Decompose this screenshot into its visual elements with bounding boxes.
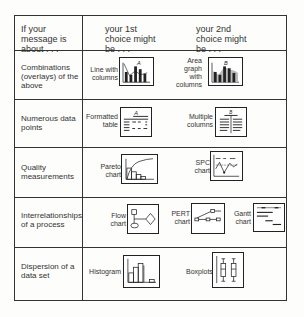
svg-text:B: B	[229, 110, 232, 115]
table-row: Combinations (overlays) of the above Lin…	[15, 51, 286, 100]
gantt-chart-icon	[253, 203, 285, 232]
choice-caption: Formatted table	[85, 113, 118, 129]
row-topic: Combinations (overlays) of the above	[21, 63, 79, 90]
row-topic: Dispersion of a data set	[21, 262, 79, 280]
svg-text:B: B	[224, 60, 228, 66]
row-topic: Quality measurements	[21, 163, 79, 181]
pert-chart-icon	[191, 203, 225, 234]
header-row: If your message is about . . . your 1st …	[15, 16, 286, 51]
flow-chart-icon	[127, 204, 159, 234]
header-second-choice: your 2nd choice might be . . .	[196, 24, 256, 54]
spc-chart-icon	[210, 151, 243, 181]
choice-caption: SPC chart	[194, 159, 210, 175]
multiple-columns-icon: B	[215, 107, 247, 137]
table-row: Numerous data points Formatted table A M…	[15, 100, 286, 148]
pareto-chart-icon	[121, 154, 158, 184]
histogram-icon	[123, 255, 160, 288]
choice-caption: Histogram	[89, 268, 121, 276]
header-first-choice: your 1st choice might be . . .	[105, 24, 165, 54]
chart-selection-table: If your message is about . . . your 1st …	[14, 15, 287, 301]
choice-caption: Gantt chart	[233, 210, 251, 226]
choice-caption: Line with columns	[90, 66, 118, 82]
row-topic: Interrelationships of a process	[21, 211, 79, 229]
area-graph-with-columns-icon: B	[208, 57, 243, 86]
svg-text:A: A	[136, 60, 141, 66]
svg-text:A: A	[133, 110, 138, 116]
formatted-table-icon: A	[120, 107, 152, 137]
choice-caption: Area graph with columns	[176, 57, 202, 89]
choice-caption: Boxplots	[186, 268, 211, 276]
table-row: Interrelationships of a process Flow cha…	[15, 198, 286, 248]
choice-caption: Flow chart	[106, 212, 126, 228]
table-row: Quality measurements Pareto chart SPC ch…	[15, 148, 286, 198]
choice-caption: PERT chart	[170, 210, 190, 226]
row-topic: Numerous data points	[21, 114, 79, 132]
choice-caption: Multiple columns	[187, 113, 213, 129]
table-row: Dispersion of a data set Histogram Boxpl…	[15, 248, 286, 302]
header-topic: If your message is about . . .	[21, 24, 79, 54]
line-with-columns-icon: A	[119, 57, 154, 86]
choice-caption: Pareto chart	[98, 163, 121, 179]
boxplots-icon	[212, 252, 244, 288]
